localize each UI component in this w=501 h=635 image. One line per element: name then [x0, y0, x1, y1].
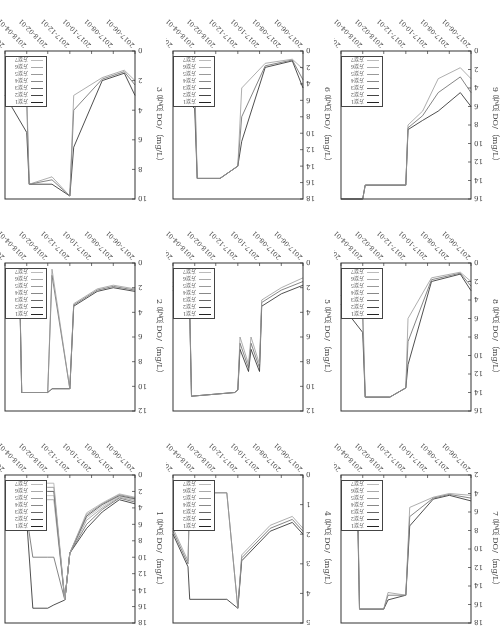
- legend-label: 方案2: [183, 304, 196, 311]
- y-tick-label: 5: [306, 619, 310, 627]
- legend-label: 方案4: [15, 502, 28, 509]
- y-tick-label: 10: [474, 351, 483, 359]
- legend-swatch: [31, 286, 43, 287]
- legend-item: 方案5: [342, 495, 382, 502]
- legend-swatch: [199, 286, 211, 287]
- legend-swatch: [367, 272, 379, 273]
- y-tick-label: 12: [474, 370, 483, 378]
- y-tick-label: 18: [138, 619, 147, 627]
- chart-legend: 方案1方案2方案3方案4方案5方案6方案7: [173, 56, 215, 107]
- legend-swatch: [31, 314, 43, 315]
- legend-label: 方案4: [15, 78, 28, 85]
- y-tick-label: 2: [138, 76, 142, 84]
- legend-item: 方案6: [6, 276, 46, 283]
- legend-swatch: [199, 300, 211, 301]
- chart-panel-5: 5 号点 DO/（mg/L）0246810122017-06-012017-08…: [166, 212, 333, 423]
- legend-label: 方案5: [183, 495, 196, 502]
- legend-item: 方案3: [6, 85, 46, 92]
- legend-item: 方案4: [6, 290, 46, 297]
- legend-label: 方案5: [183, 283, 196, 290]
- legend-item: 方案3: [174, 85, 214, 92]
- y-tick-label: 10: [138, 195, 147, 203]
- legend-swatch: [367, 74, 379, 75]
- legend-swatch: [199, 293, 211, 294]
- legend-label: 方案4: [183, 502, 196, 509]
- legend-label: 方案1: [183, 523, 196, 530]
- y-tick-label: 1: [306, 500, 310, 508]
- legend-item: 方案2: [6, 516, 46, 523]
- legend-swatch: [199, 498, 211, 499]
- y-tick-label: 4: [473, 296, 478, 304]
- chart-panel-1: 1 号点 DO/（mg/L）0246810121416182017-06-012…: [0, 424, 165, 635]
- legend-label: 方案7: [351, 57, 364, 64]
- legend-label: 方案4: [183, 290, 196, 297]
- legend-label: 方案6: [351, 276, 364, 283]
- legend-item: 方案6: [174, 64, 214, 71]
- y-tick-label: 0: [306, 47, 310, 55]
- legend-label: 方案2: [351, 92, 364, 99]
- legend-swatch: [31, 300, 43, 301]
- legend-item: 方案1: [174, 311, 214, 318]
- legend-swatch: [199, 307, 211, 308]
- legend-label: 方案3: [183, 509, 196, 516]
- legend-item: 方案2: [342, 516, 382, 523]
- legend-swatch: [31, 505, 43, 506]
- legend-item: 方案6: [174, 276, 214, 283]
- legend-item: 方案3: [174, 297, 214, 304]
- legend-swatch: [199, 102, 211, 103]
- legend-swatch: [31, 67, 43, 68]
- legend-label: 方案2: [15, 304, 28, 311]
- legend-label: 方案2: [183, 516, 196, 523]
- legend-swatch: [367, 491, 379, 492]
- legend-swatch: [199, 519, 211, 520]
- legend-swatch: [367, 293, 379, 294]
- legend-item: 方案1: [342, 523, 382, 530]
- y-tick-label: 0: [474, 47, 478, 55]
- legend-label: 方案1: [15, 523, 28, 530]
- legend-item: 方案1: [6, 99, 46, 106]
- legend-label: 方案4: [351, 290, 364, 297]
- chart-panel-6: 6 号点 DO/（mg/L）0246810121416182017-06-012…: [166, 0, 333, 211]
- legend-label: 方案3: [351, 297, 364, 304]
- legend-swatch: [199, 512, 211, 513]
- chart-panel-3: 3 号点 DO/（mg/L）02468102017-06-012017-08-0…: [0, 0, 165, 211]
- legend-swatch: [367, 60, 379, 61]
- y-tick-label: 6: [473, 508, 478, 516]
- legend-swatch: [31, 88, 43, 89]
- y-tick-label: 8: [138, 536, 142, 544]
- y-tick-label: 6: [305, 333, 310, 341]
- legend-swatch: [31, 491, 43, 492]
- legend-label: 方案6: [15, 488, 28, 495]
- legend-item: 方案5: [174, 71, 214, 78]
- y-tick-label: 4: [473, 84, 478, 92]
- y-tick-label: 10: [138, 382, 147, 390]
- legend-swatch: [31, 102, 43, 103]
- legend-item: 方案3: [174, 509, 214, 516]
- legend-swatch: [31, 484, 43, 485]
- y-tick-label: 4: [473, 489, 478, 497]
- y-tick-label: 6: [137, 333, 142, 341]
- y-tick-label: 2: [138, 283, 142, 291]
- legend-item: 方案7: [174, 57, 214, 64]
- y-tick-label: 4: [137, 106, 142, 114]
- legend-label: 方案5: [351, 495, 364, 502]
- y-tick-label: 2: [138, 487, 142, 495]
- legend-swatch: [367, 286, 379, 287]
- legend-label: 方案6: [351, 488, 364, 495]
- y-tick-label: 0: [306, 471, 310, 479]
- legend-label: 方案1: [15, 99, 28, 106]
- y-tick-label: 14: [473, 388, 482, 396]
- legend-item: 方案4: [174, 78, 214, 85]
- y-tick-label: 18: [306, 195, 315, 203]
- y-tick-label: 16: [137, 602, 146, 610]
- legend-item: 方案2: [174, 92, 214, 99]
- legend-swatch: [199, 491, 211, 492]
- legend-item: 方案5: [342, 71, 382, 78]
- legend-item: 方案2: [6, 304, 46, 311]
- legend-swatch: [367, 300, 379, 301]
- y-tick-label: 12: [138, 407, 147, 415]
- legend-label: 方案4: [351, 78, 364, 85]
- legend-item: 方案4: [342, 78, 382, 85]
- y-tick-label: 2: [306, 283, 310, 291]
- y-tick-label: 2: [474, 65, 478, 73]
